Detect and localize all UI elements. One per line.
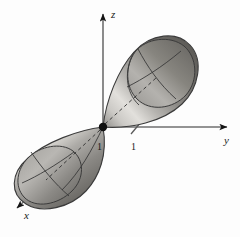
z-axis-label: z xyxy=(110,8,116,20)
figure-canvas: z y x 1 1 xyxy=(0,0,240,237)
tick-label-y-one: 1 xyxy=(131,141,136,152)
upper-nappe-surface xyxy=(103,36,198,127)
lower-nappe-surface xyxy=(14,127,104,209)
x-axis-label: x xyxy=(23,209,29,221)
tick-label-x-one: 1 xyxy=(97,141,102,152)
coordinate-figure-svg: z y x 1 1 xyxy=(0,0,240,237)
y-axis-label: y xyxy=(223,134,229,146)
origin-point xyxy=(99,123,107,131)
